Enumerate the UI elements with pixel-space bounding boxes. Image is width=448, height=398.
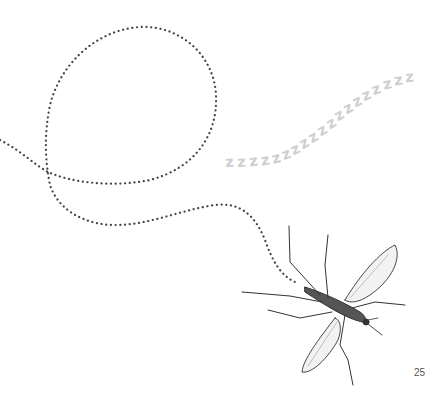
snore-letter: z bbox=[248, 153, 259, 169]
snore-letter: z bbox=[236, 155, 246, 171]
snore-letter: z bbox=[404, 70, 414, 86]
leg bbox=[289, 226, 320, 295]
snore-letter: z bbox=[393, 72, 404, 88]
snore-letter: z bbox=[224, 155, 234, 171]
leg bbox=[340, 315, 353, 385]
mosquito-drawing bbox=[242, 226, 405, 385]
leg bbox=[325, 235, 328, 298]
wing-lower bbox=[302, 318, 340, 372]
page-number: 25 bbox=[414, 367, 425, 378]
book-page: z z z z z z z z z z z z z z z z z z z 25 bbox=[0, 0, 448, 398]
leg bbox=[352, 302, 405, 308]
leg bbox=[268, 310, 332, 318]
wing-upper bbox=[345, 245, 397, 302]
flight-path-illustration bbox=[0, 0, 448, 398]
